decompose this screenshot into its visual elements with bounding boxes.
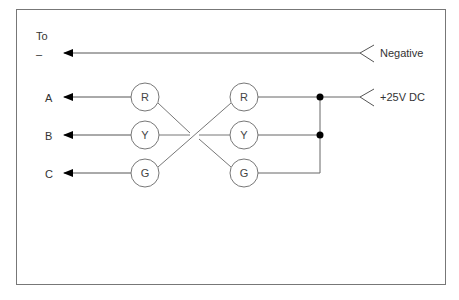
svg-text:R: R (141, 91, 149, 103)
negative-terminal-icon (360, 45, 374, 62)
cross-wire-r-g-a (158, 103, 190, 133)
wiring-diagram: To – A B C Negative R Y G R Y G (0, 0, 459, 300)
output-label-c: C (45, 168, 53, 180)
output-label-a: A (45, 92, 53, 104)
minus-label: – (36, 48, 43, 60)
svg-text:Y: Y (240, 129, 248, 141)
positive-terminal-icon (360, 89, 374, 106)
svg-text:R: R (240, 91, 248, 103)
junction-dot (317, 132, 324, 139)
svg-text:G: G (240, 167, 249, 179)
lamp-left-g: G (131, 159, 159, 187)
lamp-left-r: R (131, 83, 159, 111)
cross-wire-r-g-b (199, 139, 231, 167)
lamp-left-y: Y (131, 121, 159, 149)
svg-text:G: G (141, 167, 150, 179)
to-label: To (36, 30, 48, 42)
negative-terminal-label: Negative (380, 47, 423, 59)
junction-dot (317, 94, 324, 101)
lamp-right-r: R (230, 83, 258, 111)
positive-terminal-label: +25V DC (380, 91, 425, 103)
output-label-b: B (45, 130, 52, 142)
svg-text:Y: Y (141, 129, 149, 141)
lamp-right-g: G (230, 159, 258, 187)
lamp-right-y: Y (230, 121, 258, 149)
